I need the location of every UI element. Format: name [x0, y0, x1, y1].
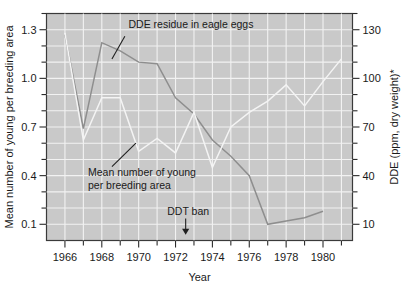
x-axis-tick-label: 1972	[163, 251, 187, 263]
x-axis-tick-label: 1968	[90, 251, 114, 263]
x-axis-tick-label: 1980	[311, 251, 335, 263]
chart-figure: 0.10.40.71.01.3 104070100130 19661968197…	[0, 0, 407, 286]
young-annotation-label-line1: Mean number of young	[88, 166, 196, 178]
x-axis-title: Year	[188, 271, 211, 283]
x-axis-tick-label: 1970	[126, 251, 150, 263]
right-axis-tick-label: 130	[363, 24, 381, 36]
right-axis-tick-label: 70	[363, 121, 375, 133]
right-axis-tick-label: 10	[363, 218, 375, 230]
left-axis-tick-label: 0.7	[21, 121, 36, 133]
eagle-dde-line-chart: 0.10.40.71.01.3 104070100130 19661968197…	[0, 0, 407, 286]
y-axis-title-right: DDE (ppm, dry weight)*	[388, 69, 400, 185]
left-axis-tick-label: 1.3	[21, 24, 36, 36]
x-axis-tick-label: 1966	[53, 251, 77, 263]
right-axis-tick-label: 40	[363, 170, 375, 182]
y-axis-title-left: Mean number of young per breeding area	[3, 25, 15, 229]
x-axis-tick-label: 1976	[237, 251, 261, 263]
right-axis-tick-label: 100	[363, 72, 381, 84]
young-annotation-label-line2: per breeding area	[88, 179, 171, 191]
left-axis-tick-label: 0.1	[21, 218, 36, 230]
dde-annotation-label: DDE residue in eagle eggs	[129, 18, 254, 30]
ddt-ban-label: DDT ban	[167, 205, 209, 217]
x-axis-tick-label: 1978	[274, 251, 298, 263]
x-axis-tick-label: 1974	[200, 251, 224, 263]
left-axis-tick-label: 1.0	[21, 72, 36, 84]
left-axis-tick-label: 0.4	[21, 170, 36, 182]
